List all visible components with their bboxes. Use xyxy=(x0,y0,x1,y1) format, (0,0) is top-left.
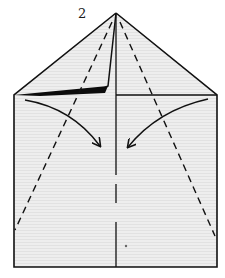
paper-speck xyxy=(125,245,127,247)
step-number-label: 2 xyxy=(78,6,86,21)
origami-diagram xyxy=(0,0,225,278)
